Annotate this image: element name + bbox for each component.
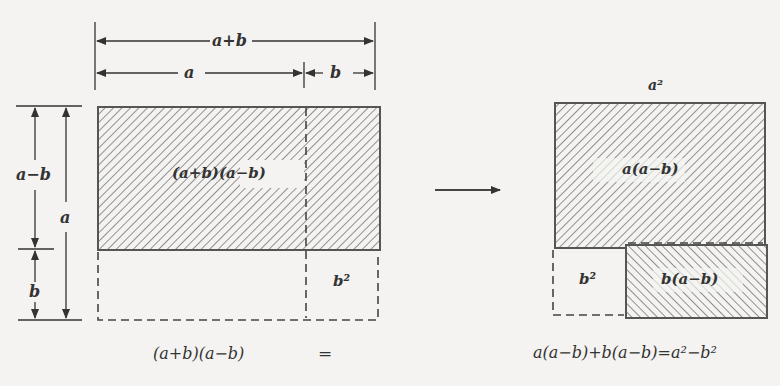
equation-left: (a+b)(a−b) <box>153 346 244 362</box>
side-dimensions <box>16 106 82 320</box>
dim-label-b-side: b <box>29 284 40 300</box>
diagram-canvas <box>0 0 780 386</box>
upper-region-label: a(a−b) <box>622 162 679 177</box>
dim-label-a-top: a <box>184 65 194 81</box>
equation-equals: = <box>318 345 332 362</box>
lower-right-region-label: b(a−b) <box>661 272 718 287</box>
dim-label-b-top: b <box>330 65 341 81</box>
dim-label-a-plus-b: a+b <box>212 33 247 49</box>
right-b-squared-label: b² <box>579 272 596 287</box>
dim-label-a-minus-b: a−b <box>16 167 51 183</box>
left-b-squared-label: b² <box>333 274 350 289</box>
equation-right: a(a−b)+b(a−b)=a²−b² <box>533 345 717 361</box>
dim-label-a-side: a <box>60 210 70 226</box>
left-region-label: (a+b)(a−b) <box>172 166 266 181</box>
a-squared-label: a² <box>648 78 663 92</box>
